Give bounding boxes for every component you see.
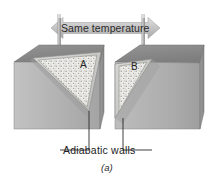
block-a-label: A <box>80 60 87 70</box>
block-a <box>14 45 110 129</box>
thermodynamics-figure: Same temperature A B Adiabatic walls (a) <box>0 0 219 181</box>
block-b-label: B <box>131 62 138 72</box>
adiabatic-walls-caption: Adiabatic walls <box>63 145 135 156</box>
figure-id-label: (a) <box>101 163 113 173</box>
block-b <box>112 45 204 129</box>
same-temperature-label: Same temperature <box>61 23 150 34</box>
